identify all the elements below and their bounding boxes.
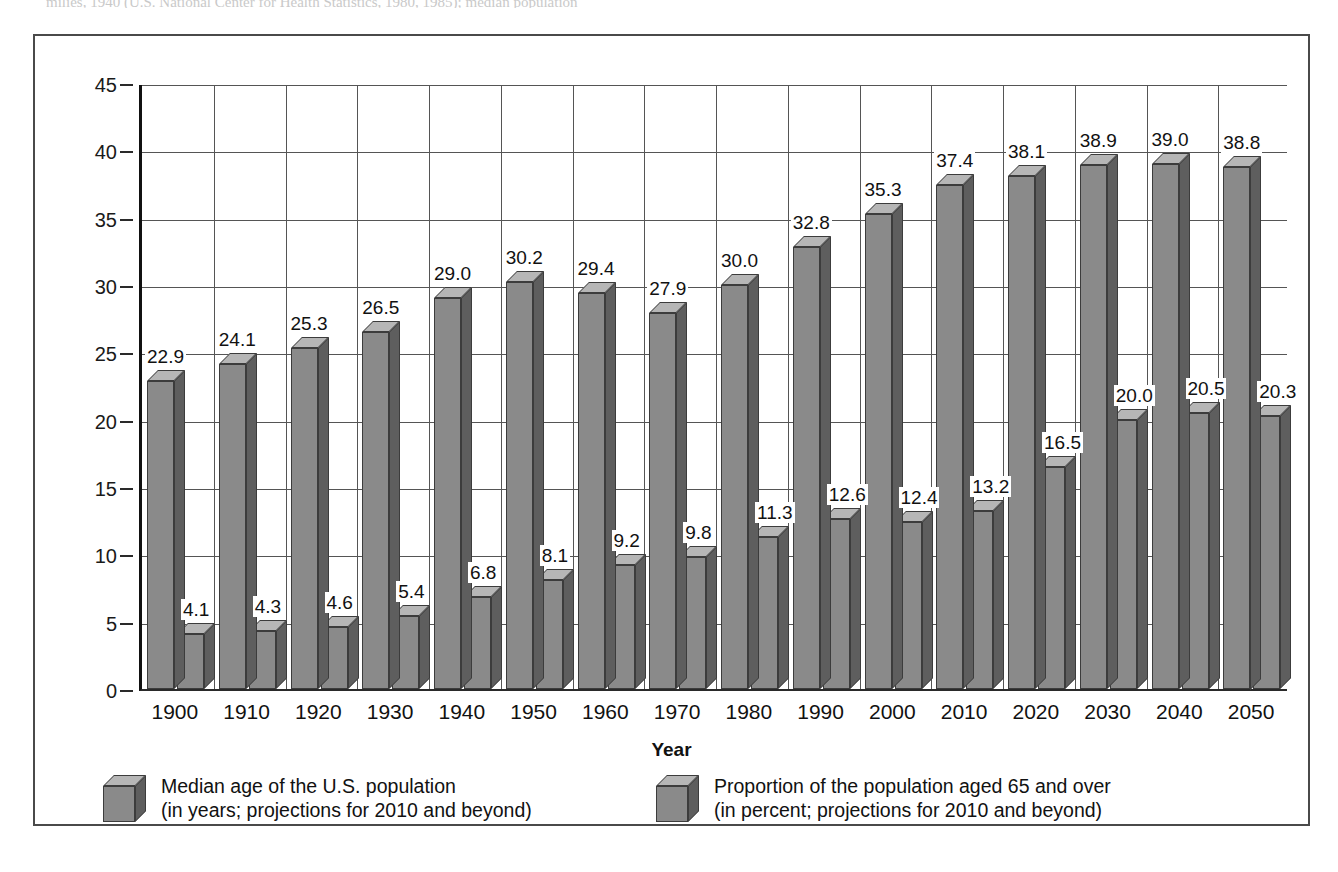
x-axis-tick-label: 1980 xyxy=(726,700,773,724)
x-axis-tick-label: 1920 xyxy=(295,700,342,724)
y-axis-tick-label: 35 xyxy=(95,208,117,231)
legend-label-proportion-65-over: Proportion of the population aged 65 and… xyxy=(714,774,1111,822)
bar-value-label: 35.3 xyxy=(863,179,904,200)
bar-value-label: 38.8 xyxy=(1221,132,1262,153)
bar-1940-series1 xyxy=(434,298,461,689)
bar-side-face xyxy=(892,203,903,689)
bar-side-face xyxy=(1209,402,1220,689)
bar-value-label: 9.8 xyxy=(683,522,713,543)
bar-group-2000: 35.312.4 xyxy=(860,85,932,689)
x-axis-tick-label: 1990 xyxy=(797,700,844,724)
bar-side-face xyxy=(563,569,574,689)
bar-side-face xyxy=(993,500,1004,689)
y-axis-tick-label: 25 xyxy=(95,343,117,366)
y-axis-tick-mark xyxy=(120,151,133,153)
bar-value-label: 12.4 xyxy=(899,487,940,508)
bar-2030-series1 xyxy=(1080,165,1107,689)
y-axis-tick-mark xyxy=(120,421,133,423)
bar-group-1950: 30.28.1 xyxy=(501,85,573,689)
bar-1990-series1 xyxy=(793,247,820,689)
bar-value-label: 20.3 xyxy=(1257,381,1298,402)
bar-side-face xyxy=(276,620,287,689)
legend-item-proportion-65-over: Proportion of the population aged 65 and… xyxy=(656,774,1111,822)
y-axis-tick-label: 20 xyxy=(95,410,117,433)
bar-side-face xyxy=(820,236,831,689)
bar-front-face xyxy=(1223,167,1250,690)
bar-group-1930: 26.55.4 xyxy=(357,85,429,689)
legend-label-line2: (in percent; projections for 2010 and be… xyxy=(714,799,1102,821)
x-axis-tick-label: 1910 xyxy=(223,700,270,724)
x-axis-tick-label: 2050 xyxy=(1228,700,1275,724)
x-axis-tick-label: 2020 xyxy=(1013,700,1060,724)
legend-swatch-cube-icon xyxy=(103,774,145,822)
legend-label-line1: Proportion of the population aged 65 and… xyxy=(714,775,1111,797)
bar-group-2010: 37.413.2 xyxy=(931,85,1003,689)
bar-side-face xyxy=(389,321,400,689)
bar-value-label: 29.4 xyxy=(576,258,617,279)
bar-side-face xyxy=(922,511,933,689)
bar-1920-series1 xyxy=(291,348,318,689)
x-axis-title: Year xyxy=(35,739,1308,761)
y-axis-tick-label: 10 xyxy=(95,545,117,568)
y-axis-tick-label: 45 xyxy=(95,74,117,97)
bar-side-face xyxy=(635,554,646,689)
bar-value-label: 22.9 xyxy=(145,346,186,367)
bar-front-face xyxy=(434,298,461,689)
bar-1910-series1 xyxy=(219,364,246,689)
bar-front-face xyxy=(865,214,892,689)
bar-1970-series1 xyxy=(649,313,676,689)
bar-1900-series1 xyxy=(147,381,174,689)
bar-front-face xyxy=(649,313,676,689)
bar-side-face xyxy=(1250,156,1261,690)
bar-group-1900: 22.94.1 xyxy=(142,85,214,689)
bar-value-label: 20.5 xyxy=(1186,378,1227,399)
bar-group-2050: 38.820.3 xyxy=(1218,85,1290,689)
bar-side-face xyxy=(1137,409,1148,689)
bar-side-face xyxy=(706,546,717,689)
bar-value-label: 9.2 xyxy=(612,530,642,551)
x-axis-tick-label: 2000 xyxy=(869,700,916,724)
bar-side-face xyxy=(1280,405,1291,689)
bar-front-face xyxy=(1080,165,1107,689)
bar-1950-series1 xyxy=(506,282,533,689)
y-axis-tick-label: 40 xyxy=(95,141,117,164)
bar-side-face xyxy=(1065,456,1076,689)
bar-side-face xyxy=(461,287,472,689)
bar-value-label: 32.8 xyxy=(791,212,832,233)
y-axis-tick-mark xyxy=(120,286,133,288)
bar-front-face xyxy=(1152,164,1179,689)
bar-value-label: 29.0 xyxy=(432,263,473,284)
y-axis-tick-mark xyxy=(120,353,133,355)
x-axis-tick-label: 1950 xyxy=(510,700,557,724)
bar-side-face xyxy=(318,337,329,689)
bar-value-label: 20.0 xyxy=(1114,385,1155,406)
x-axis-tick-label: 2040 xyxy=(1156,700,1203,724)
bar-side-face xyxy=(676,302,687,689)
y-axis-tick-label: 30 xyxy=(95,276,117,299)
bar-value-label: 4.3 xyxy=(253,596,283,617)
bar-side-face xyxy=(748,274,759,689)
bar-front-face xyxy=(506,282,533,689)
bar-2000-series1 xyxy=(865,214,892,689)
bar-group-1960: 29.49.2 xyxy=(573,85,645,689)
bar-side-face xyxy=(963,174,974,689)
bar-2050-series1 xyxy=(1223,167,1250,690)
x-axis-tick-label: 2030 xyxy=(1084,700,1131,724)
bar-1980-series1 xyxy=(721,285,748,689)
bar-front-face xyxy=(1008,176,1035,689)
bar-side-face xyxy=(491,586,502,689)
bar-value-label: 16.5 xyxy=(1042,432,1083,453)
bar-side-face xyxy=(1107,154,1118,689)
bar-group-1910: 24.14.3 xyxy=(214,85,286,689)
legend-label-median-age: Median age of the U.S. population (in ye… xyxy=(161,774,532,822)
y-axis-tick-mark xyxy=(120,555,133,557)
y-axis-tick-mark xyxy=(120,219,133,221)
bar-group-2040: 39.020.5 xyxy=(1147,85,1219,689)
bar-value-label: 27.9 xyxy=(647,278,688,299)
bar-group-1920: 25.34.6 xyxy=(286,85,358,689)
bar-group-1940: 29.06.8 xyxy=(429,85,501,689)
bar-value-label: 38.9 xyxy=(1078,130,1119,151)
bar-2020-series1 xyxy=(1008,176,1035,689)
x-axis-tick-label: 1930 xyxy=(367,700,414,724)
y-axis-tick-mark xyxy=(120,690,133,692)
